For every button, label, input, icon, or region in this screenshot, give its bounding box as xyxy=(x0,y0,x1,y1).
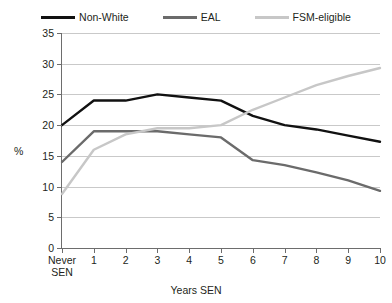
y-axis-tick-label: 25 xyxy=(42,89,54,100)
legend-swatch-fsm-eligible xyxy=(255,16,289,19)
x-axis-tick-label: 5 xyxy=(218,254,224,266)
y-axis-tick xyxy=(57,217,62,218)
y-axis-tick-label: 20 xyxy=(42,120,54,131)
series-line-eal xyxy=(62,131,380,191)
x-axis-tick-label: Never SEN xyxy=(48,254,76,278)
series-line-non-white xyxy=(62,94,380,141)
y-axis-tick xyxy=(57,125,62,126)
series-lines xyxy=(62,33,380,248)
x-axis-tick xyxy=(157,248,158,253)
x-axis-tick xyxy=(62,248,63,253)
x-axis-tick-label: 2 xyxy=(123,254,129,266)
legend-label-fsm-eligible: FSM-eligible xyxy=(293,12,351,23)
x-axis-tick-label: 6 xyxy=(250,254,256,266)
x-axis-tick xyxy=(316,248,317,253)
y-axis-tick-label: 30 xyxy=(42,58,54,69)
y-axis-tick-label: 35 xyxy=(42,28,54,39)
legend-item-eal[interactable]: EAL xyxy=(163,12,221,23)
x-axis-tick xyxy=(348,248,349,253)
plot-area: 05101520253035Never SEN12345678910 xyxy=(62,33,380,248)
x-axis-tick-label: 3 xyxy=(154,254,160,266)
x-axis-tick-label: 9 xyxy=(345,254,351,266)
y-axis-tick xyxy=(57,94,62,95)
legend-item-fsm-eligible[interactable]: FSM-eligible xyxy=(255,12,351,23)
x-axis-title: Years SEN xyxy=(0,285,392,296)
y-axis-tick-label: 10 xyxy=(42,181,54,192)
chart-legend: Non-WhiteEALFSM-eligible xyxy=(0,8,392,26)
x-axis-tick xyxy=(253,248,254,253)
x-axis-tick xyxy=(94,248,95,253)
x-axis-tick xyxy=(221,248,222,253)
x-axis-tick-label: 1 xyxy=(91,254,97,266)
x-axis-tick xyxy=(380,248,381,253)
y-axis-tick xyxy=(57,33,62,34)
legend-label-eal: EAL xyxy=(201,12,221,23)
legend-item-non-white[interactable]: Non-White xyxy=(41,12,129,23)
legend-swatch-eal xyxy=(163,16,197,19)
x-axis-tick xyxy=(285,248,286,253)
x-axis-tick-label: 7 xyxy=(282,254,288,266)
y-axis-tick xyxy=(57,156,62,157)
x-axis-tick-label: 4 xyxy=(186,254,192,266)
y-axis-tick xyxy=(57,187,62,188)
y-axis-title: % xyxy=(14,146,23,157)
x-axis-tick xyxy=(126,248,127,253)
x-axis-tick xyxy=(189,248,190,253)
x-axis-tick-label: 8 xyxy=(313,254,319,266)
x-axis-tick-label: 10 xyxy=(374,254,386,266)
y-axis-tick-label: 0 xyxy=(48,243,54,254)
y-axis-tick-label: 5 xyxy=(48,212,54,223)
y-axis-tick-label: 15 xyxy=(42,151,54,162)
y-axis-tick xyxy=(57,64,62,65)
legend-label-non-white: Non-White xyxy=(79,12,129,23)
line-chart: Non-WhiteEALFSM-eligible % 0510152025303… xyxy=(0,0,392,303)
legend-swatch-non-white xyxy=(41,16,75,19)
